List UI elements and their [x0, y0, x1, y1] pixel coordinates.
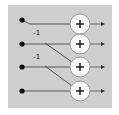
coefficient-label: -1 [33, 52, 41, 61]
input-node [19, 88, 24, 93]
adder-node [70, 14, 90, 34]
adder-node [70, 57, 90, 77]
adder-node [70, 34, 90, 54]
input-node [19, 64, 24, 69]
coefficient-label: -1 [33, 28, 41, 37]
input-node [19, 41, 24, 46]
adder-node [70, 81, 90, 101]
input-node [19, 17, 24, 22]
adder-network-diagram: -1-1 [0, 0, 119, 115]
